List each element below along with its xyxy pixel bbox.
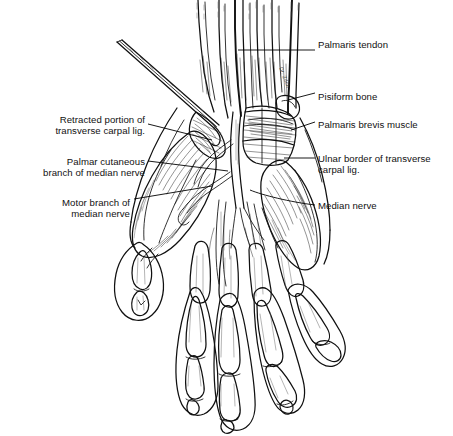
- label-ulnar-border-line1: Ulnar border of transverse: [318, 153, 431, 165]
- anatomy-figure: Palmaris tendon Pisiform bone Palmaris b…: [0, 0, 453, 436]
- label-motor-branch-line1: Motor branch of: [30, 197, 130, 209]
- label-ulnar-border-line2: carpal lig.: [318, 164, 360, 176]
- label-palmar-cutaneous-line1: Palmar cutaneous: [25, 156, 145, 168]
- label-pisiform-bone: Pisiform bone: [318, 91, 377, 103]
- label-palmar-cutaneous-line2: branch of median nerve: [15, 167, 145, 179]
- label-palmaris-tendon: Palmaris tendon: [318, 39, 388, 51]
- label-retracted-portion-line2: transverse carpal lig.: [25, 125, 145, 137]
- label-motor-branch-line2: median nerve: [30, 208, 130, 220]
- label-retracted-portion-line1: Retracted portion of: [25, 114, 145, 126]
- label-palmaris-brevis-muscle: Palmaris brevis muscle: [318, 119, 418, 131]
- label-median-nerve: Median nerve: [318, 200, 377, 212]
